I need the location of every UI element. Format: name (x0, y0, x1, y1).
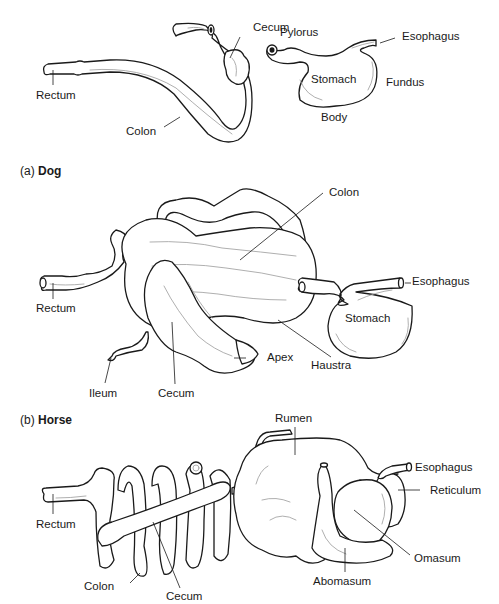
label-horse-cecum: Cecum (158, 387, 194, 400)
label-ruminant-cecum: Cecum (166, 590, 202, 603)
label-horse-ileum: Ileum (89, 387, 117, 400)
label-horse-esophagus: Esophagus (412, 275, 470, 288)
caption-dog: (a) Dog (20, 164, 61, 178)
horse-intestine-drawing (40, 189, 316, 373)
caption-horse-letter: (b) (20, 413, 35, 427)
label-ruminant-rumen: Rumen (275, 412, 312, 425)
label-ruminant-omasum: Omasum (414, 552, 461, 565)
caption-horse: (b) Horse (20, 413, 72, 427)
label-horse-stomach: Stomach (345, 312, 390, 325)
label-horse-rectum: Rectum (36, 302, 76, 315)
label-ruminant-abomasum: Abomasum (313, 575, 371, 588)
label-dog-fundus: Fundus (386, 76, 424, 89)
label-dog-body: Body (321, 111, 347, 124)
label-ruminant-rectum: Rectum (36, 518, 76, 531)
label-horse-colon: Colon (329, 186, 359, 199)
label-dog-esophagus: Esophagus (402, 30, 460, 43)
ruminant-stomach-drawing (234, 438, 412, 563)
label-ruminant-reticulum: Reticulum (430, 484, 481, 497)
label-dog-pylorus: Pylorus (280, 26, 318, 39)
label-dog-rectum: Rectum (36, 89, 76, 102)
label-dog-colon: Colon (126, 125, 156, 138)
label-ruminant-esophagus: Esophagus (415, 461, 473, 474)
caption-horse-name: Horse (38, 413, 72, 427)
label-horse-apex: Apex (267, 351, 293, 364)
label-ruminant-colon: Colon (84, 580, 114, 593)
caption-dog-letter: (a) (20, 164, 35, 178)
caption-dog-name: Dog (38, 164, 61, 178)
label-horse-haustra: Haustra (311, 359, 351, 372)
label-dog-stomach: Stomach (311, 73, 356, 86)
